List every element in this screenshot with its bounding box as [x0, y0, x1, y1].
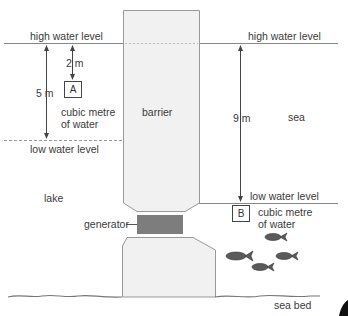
- cube-b-label-line2: of water: [258, 218, 295, 230]
- height-label-5m: 5 m: [36, 87, 54, 99]
- arrowhead-down: [44, 133, 49, 139]
- cube-box-b: B: [232, 205, 250, 222]
- barrier-lower: [123, 238, 216, 298]
- height-label-9m: 9 m: [233, 112, 251, 124]
- diagram-graphics: [0, 0, 348, 316]
- arrowhead-down: [70, 74, 75, 80]
- low-water-label-right: low water level: [250, 190, 319, 202]
- generator-block: [137, 215, 183, 234]
- cube-a-label-line1: cubic metre: [61, 106, 115, 118]
- high-water-label-left: high water level: [30, 30, 103, 42]
- arrowhead-up: [70, 45, 75, 51]
- arrowhead-down: [238, 196, 243, 202]
- barrier-label: barrier: [142, 106, 172, 118]
- corner-shape: [339, 300, 348, 316]
- cube-b-label-line1: cubic metre: [258, 206, 312, 218]
- low-water-label-left: low water level: [30, 143, 99, 155]
- fish-icon: [265, 233, 287, 241]
- fish-icon: [226, 251, 253, 261]
- arrowhead-up: [238, 45, 243, 51]
- tidal-barrier-diagram: high water level high water level 2 m 5 …: [0, 0, 348, 316]
- fish-icon: [276, 252, 298, 260]
- sea-label: sea: [288, 111, 305, 123]
- arrowhead-up: [44, 45, 49, 51]
- cube-box-a: A: [64, 81, 82, 98]
- generator-label: generator: [84, 218, 129, 230]
- fish-icon: [252, 263, 274, 271]
- lake-label: lake: [44, 192, 63, 204]
- fish-icon-group: [226, 233, 298, 271]
- depth-label-2m: 2 m: [66, 57, 84, 69]
- high-water-label-right: high water level: [248, 30, 321, 42]
- sea-bed-label: sea bed: [274, 299, 311, 311]
- cube-a-label-line2: of water: [61, 118, 98, 130]
